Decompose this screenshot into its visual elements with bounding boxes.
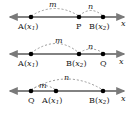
- point-dot-q: [29, 89, 34, 94]
- axis-label-x: x: [119, 58, 124, 66]
- point-dot-p: [77, 15, 82, 20]
- axis-label-x: x: [121, 95, 126, 103]
- arc-m: [31, 9, 79, 17]
- point-dot-a: [29, 52, 34, 57]
- arc-label-n: n: [88, 3, 93, 11]
- point-label-q: Q: [28, 97, 35, 105]
- point-dot-b: [101, 89, 106, 94]
- point-label-p: P: [76, 23, 81, 31]
- arc-label-m: m: [39, 82, 47, 90]
- point-label-b: B(x2): [66, 60, 87, 69]
- axis-label-x: x: [121, 20, 126, 28]
- point-label-a: A(x1): [42, 97, 63, 106]
- point-dot-b: [101, 15, 106, 20]
- diagram-case-external-before-a: m n Q A(x1) B(x2) x: [0, 74, 133, 111]
- arc-label-n: n: [88, 43, 93, 51]
- arc-label-m: m: [55, 37, 63, 45]
- point-dot-a: [54, 89, 59, 94]
- diagram-case-external-beyond-b: m n A(x1) B(x2) Q x: [0, 37, 133, 74]
- point-dot-a: [29, 15, 34, 20]
- point-label-b: B(x2): [89, 97, 110, 106]
- point-label-a: A(x1): [18, 23, 39, 32]
- point-dot-q: [101, 52, 106, 57]
- point-dot-b: [77, 52, 82, 57]
- section-formula-figure: m n A(x1) P B(x2) x: [0, 0, 133, 113]
- arc-label-m: m: [49, 1, 57, 9]
- arc-label-n: n: [64, 74, 69, 82]
- point-label-b: B(x2): [89, 23, 110, 32]
- point-label-q: Q: [100, 60, 107, 68]
- diagram-case-internal: m n A(x1) P B(x2) x: [0, 0, 133, 37]
- arc-n: [79, 11, 103, 17]
- point-label-a: A(x1): [18, 60, 39, 69]
